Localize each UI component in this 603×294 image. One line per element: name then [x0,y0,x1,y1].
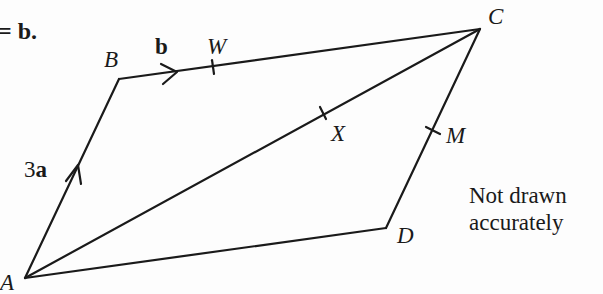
tick-w [212,60,214,74]
point-label-x: X [331,122,345,145]
vector-coefficient: 3 [24,157,36,182]
note-line-1: Not drawn [469,182,567,209]
header-fragment: = b. [0,19,37,43]
vector-symbol-a: a [36,157,48,182]
note-line-2: accurately [469,209,567,236]
not-drawn-accurately-note: Not drawn accurately [469,182,567,236]
side-da [25,228,386,278]
point-label-d: D [397,224,414,247]
point-label-w: W [207,35,226,58]
side-cd [386,29,480,228]
point-label-a: A [0,271,14,294]
vector-label-bc: b [155,35,168,58]
point-label-c: C [488,5,503,28]
vector-label-ab: 3a [24,158,47,181]
point-label-b: B [104,48,118,71]
point-label-m: M [446,124,465,147]
arrow-bc-icon [161,64,177,84]
side-bc [119,29,480,79]
